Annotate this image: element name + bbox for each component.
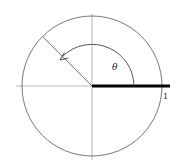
theta-label: θ [112, 62, 118, 72]
unit-circle-diagram: θ 1 [0, 0, 179, 164]
angle-arc [63, 44, 134, 86]
arrowhead-icon [60, 53, 68, 61]
unit-length-label: 1 [163, 92, 168, 101]
rotated-radius [43, 37, 93, 87]
